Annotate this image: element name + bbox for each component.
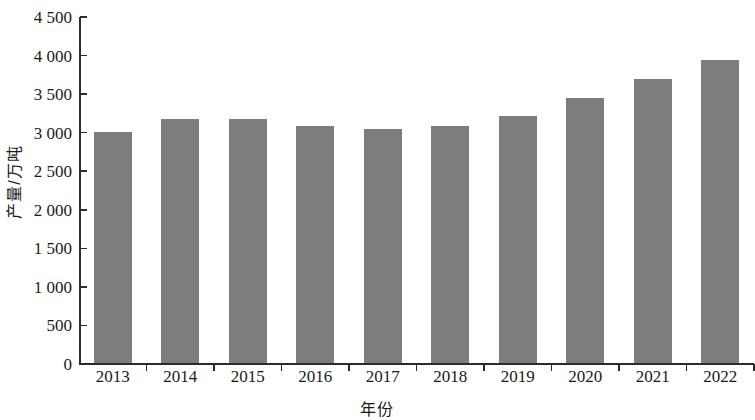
x-axis-tick-label: 2016 [280,368,350,387]
bar [161,119,199,363]
y-axis-tick-label: 3 000 [34,124,72,141]
x-axis-tick-label: 2013 [78,368,148,387]
y-axis-tick-mark [80,363,87,365]
y-axis-tick-mark [80,209,87,211]
y-axis-tick-mark [80,248,87,250]
x-axis-tick-label: 2021 [618,368,688,387]
y-axis-tick-mark [80,170,87,172]
x-axis-tick-label: 2018 [415,368,485,387]
x-axis-tick-label: 2022 [685,368,755,387]
x-axis-tick-label: 2019 [483,368,553,387]
bar [296,126,334,363]
bar [431,126,469,363]
bar [499,116,537,363]
y-axis-tick-mark [80,132,87,134]
bar [94,132,132,363]
bar [364,129,402,363]
y-axis-tick-mark [80,286,87,288]
y-axis-tick-label: 500 [47,317,73,334]
x-axis-tick-label: 2014 [145,368,215,387]
y-axis-tick-label: 2 000 [34,201,72,218]
y-axis-tick-label: 2 500 [34,163,72,180]
y-axis-tick-mark [80,325,87,327]
bar [701,60,739,363]
x-axis-tick-label: 2020 [550,368,620,387]
x-axis-title: 年份 [0,396,754,420]
bar [634,79,672,363]
y-axis-tick-label: 4 500 [34,9,72,26]
y-axis-tick-label: 1 500 [34,240,72,257]
y-axis-tick-label: 4 000 [34,47,72,64]
y-axis-tick-mark [80,55,87,57]
plot-area [79,17,754,364]
y-axis-tick-label: 0 [64,356,73,373]
y-axis-tick-label: 1 000 [34,278,72,295]
bar [566,98,604,363]
y-axis-tick-labels: 05001 0001 5002 0002 5003 0003 5004 0004… [22,0,78,380]
x-axis-tick-label: 2017 [348,368,418,387]
x-axis-tick-label: 2015 [213,368,283,387]
y-axis-line [79,17,81,364]
y-axis-tick-mark [80,16,87,18]
x-axis-title-label: 年份 [360,401,394,418]
bar [229,119,267,363]
y-axis-tick-mark [80,93,87,95]
x-axis-tick-labels: 2013201420152016201720182019202020212022 [79,368,754,394]
y-axis-tick-label: 3 500 [34,86,72,103]
